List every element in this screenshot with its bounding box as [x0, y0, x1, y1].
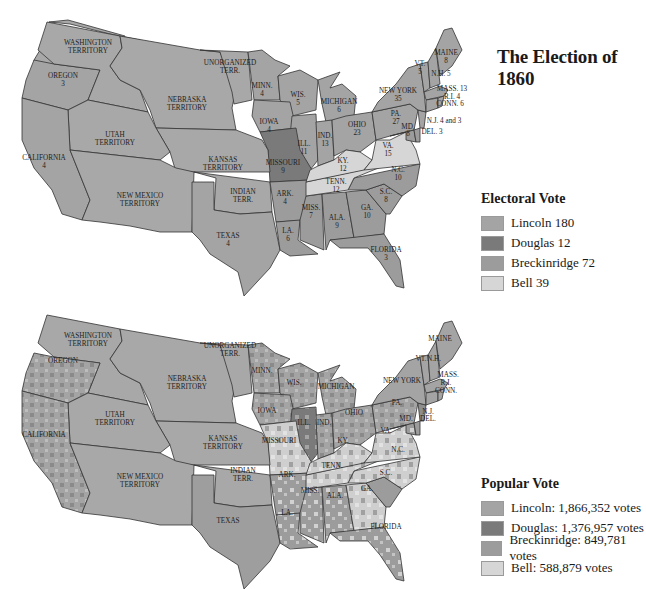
label-conn: CONN.: [435, 387, 457, 395]
label-minn: MINN.: [252, 367, 273, 375]
label-ri: R.I.: [441, 379, 452, 387]
label-nj: N.J. 4 and 3: [427, 117, 462, 125]
label-iowa: IOWA: [258, 407, 278, 415]
label-washington: WASHINGTONTERRITORY: [64, 332, 113, 348]
label-nebraska: NEBRASKATERRITORY: [167, 375, 208, 391]
popular-vote-map: WASHINGTONTERRITORY OREGON UNORGANIZEDTE…: [0, 293, 480, 589]
label-vt: VT.: [416, 355, 427, 363]
swatch-bell: [481, 276, 504, 291]
popular-vote-legend: Popular Vote Lincoln: 1,866,352 votes Do…: [481, 476, 646, 578]
electoral-vote-legend: Electoral Vote Lincoln 180 Douglas 12 Br…: [481, 191, 595, 293]
label-nebraska: NEBRASKATERRITORY: [167, 96, 208, 112]
label-nh: N.H. 5: [431, 70, 451, 78]
label-ga: GA.: [361, 485, 373, 493]
label-del: DEL.: [420, 415, 436, 423]
label-indian: INDIANTERR.: [230, 467, 256, 483]
label-missouri: MISSOURI: [262, 437, 297, 445]
label-mass: MASS.: [437, 371, 459, 379]
label-ark: ARK.: [279, 471, 296, 479]
electoral-vote-map: WASHINGTONTERRITORY OREGON3 UNORGANIZEDT…: [0, 0, 480, 300]
swatch-lincoln: [481, 501, 504, 516]
label-md: MD.: [399, 415, 413, 423]
label-conn: CONN. 6: [436, 100, 464, 108]
legend-label: Douglas 12: [511, 235, 571, 251]
state-michigan: [318, 72, 356, 122]
label-ala: ALA.: [327, 492, 344, 500]
legend-item-lincoln: Lincoln: 1,866,352 votes: [481, 498, 646, 518]
legend-item-breckinridge: Breckinridge: 849,781 votes: [481, 538, 646, 558]
label-maine: MAINE: [428, 335, 452, 343]
label-ohio: OHIO: [345, 409, 363, 417]
label-ky: KY.: [337, 437, 348, 445]
label-del: DEL. 3: [421, 128, 443, 136]
legend-label: Breckinridge 72: [511, 255, 595, 271]
label-new-mexico: NEW MEXICOTERRITORY: [117, 192, 163, 208]
swatch-breckinridge: [481, 256, 504, 271]
label-miss: MISS.: [301, 487, 320, 495]
swatch-douglas: [481, 521, 504, 536]
label-california: CALIFORNIA: [22, 431, 66, 439]
legend-item-douglas: Douglas 12: [481, 233, 595, 253]
label-ind: IND.: [317, 419, 332, 427]
swatch-douglas: [481, 236, 504, 251]
label-oregon: OREGON: [48, 357, 79, 365]
swatch-lincoln: [481, 216, 504, 231]
state-florida: [330, 234, 404, 288]
label-mass: MASS. 13: [437, 85, 468, 93]
label-la: LA.: [281, 509, 293, 517]
legend-label: Bell 39: [511, 275, 549, 291]
electoral-legend-heading: Electoral Vote: [481, 191, 595, 207]
state-florida: [330, 527, 404, 581]
label-nh: N.H.: [427, 355, 441, 363]
label-new-york: NEW YORK: [383, 377, 422, 385]
label-indian: INDIANTERR.: [230, 188, 256, 204]
state-iowa: [252, 100, 296, 132]
label-texas: TEXAS: [216, 517, 239, 525]
legend-item-breckinridge: Breckinridge 72: [481, 253, 595, 273]
legend-item-lincoln: Lincoln 180: [481, 213, 595, 233]
label-va: VA.: [380, 427, 391, 435]
label-sc: S.C.: [380, 469, 393, 477]
label-ill: ILL.: [298, 419, 311, 427]
label-washington: WASHINGTONTERRITORY: [64, 39, 113, 55]
label-nc: N.C.: [391, 446, 405, 454]
popular-legend-heading: Popular Vote: [481, 476, 646, 492]
legend-item-bell: Bell 39: [481, 273, 595, 293]
legend-label: Lincoln 180: [511, 215, 574, 231]
label-florida: FLORIDA: [370, 523, 402, 531]
label-pa: PA.: [392, 399, 403, 407]
label-wis: WIS.: [287, 379, 302, 387]
map-title: The Election of 1860: [497, 46, 646, 90]
label-tenn: TENN.: [322, 462, 343, 470]
legend-label: Lincoln: 1,866,352 votes: [511, 500, 641, 516]
swatch-bell: [481, 561, 504, 576]
label-michigan: MICHIGAN: [318, 383, 356, 391]
swatch-breckinridge: [481, 541, 502, 556]
state-new-jersey: [418, 110, 426, 128]
legend-label: Bell: 588,879 votes: [511, 560, 612, 576]
label-new-mexico: NEW MEXICOTERRITORY: [117, 473, 163, 489]
